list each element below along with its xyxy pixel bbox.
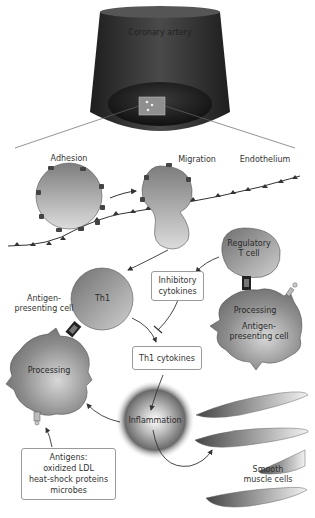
atherosclerosis-diagram <box>0 0 315 518</box>
migration-to-th1-arrow <box>128 250 168 270</box>
endothelium-label: Endothelium <box>235 155 295 165</box>
right-apc-label: Antigen- presenting cell <box>228 322 290 342</box>
adhesion-label: Adhesion <box>44 154 94 164</box>
th1-label: Th1 <box>90 294 115 304</box>
coronary-artery-label: Coronary artery <box>120 28 200 38</box>
inflammation-label: Inflammation <box>124 416 186 426</box>
inhibitory-cytokines-box: Inhibitory cytokines <box>151 271 204 301</box>
smooth-muscle-cells <box>195 392 308 507</box>
antigens-box: Antigens: oxidized LDL heat-shock protei… <box>21 448 116 500</box>
regulatory-t-cell <box>222 228 280 290</box>
left-antigen-presenting-cell <box>6 328 92 425</box>
migration-label: Migration <box>172 155 222 165</box>
smooth-muscle-cells-label: Smooth muscle cells <box>238 465 298 485</box>
regulatory-t-cell-label: Regulatory T cell <box>224 239 274 259</box>
left-apc-label: Antigen- presenting cell <box>14 294 74 314</box>
inhibitory-inhibition-line <box>158 300 178 330</box>
th1-to-th1cytokines-arrow <box>132 318 156 342</box>
adhesion-to-migration-arrow <box>110 191 136 198</box>
th1-cytokines-box: Th1 cytokines <box>132 346 202 370</box>
antigens-to-apc-arrow <box>46 428 52 447</box>
migrating-leukocyte <box>140 163 192 249</box>
right-apc-processing-label: Processing <box>230 306 280 316</box>
left-apc-processing-label: Processing <box>24 366 74 376</box>
treg-to-inhibitory-arrow <box>196 257 219 272</box>
